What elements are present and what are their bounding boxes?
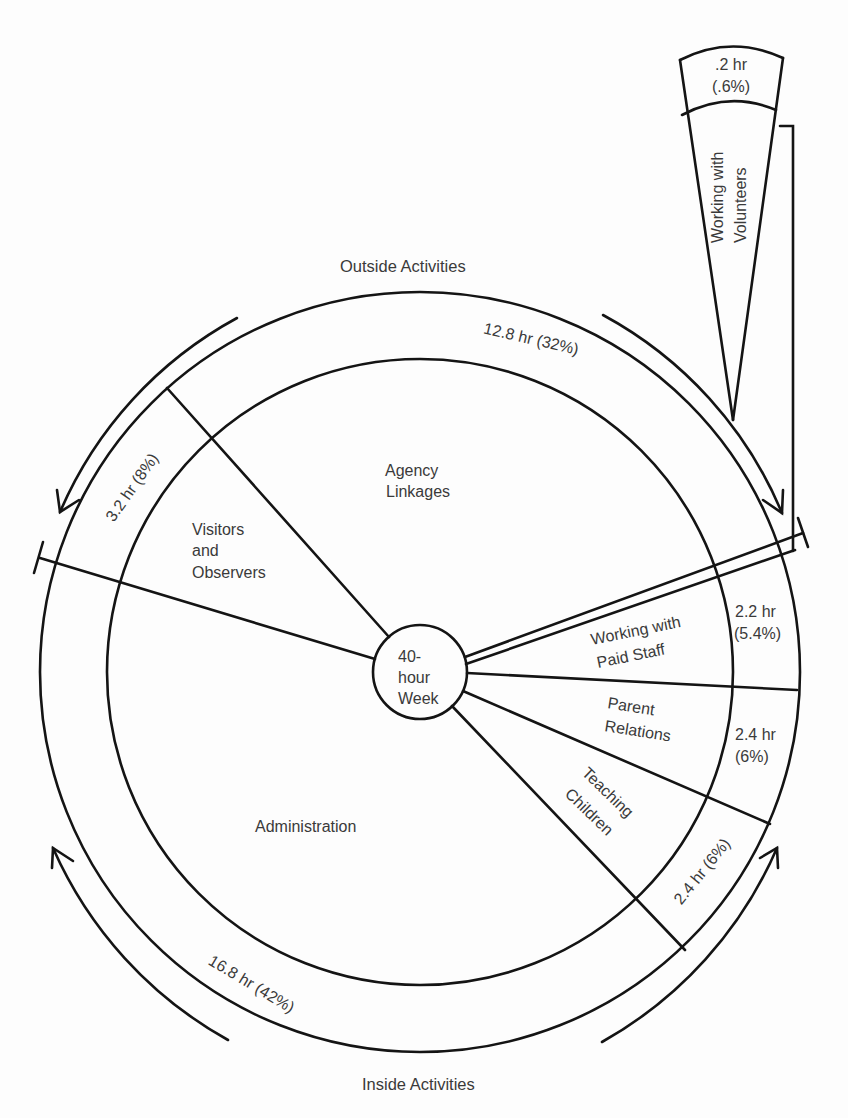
divider-teaching-administration xyxy=(452,706,685,950)
agency-label-line1: Agency xyxy=(385,462,438,479)
paidstaff-value-line1: 2.2 hr xyxy=(735,603,777,620)
visitors-value: 3.2 hr (8%) xyxy=(102,450,161,525)
arrow-inside-left xyxy=(52,848,228,1040)
paidstaff-value-line2: (5.4%) xyxy=(734,625,781,642)
time-allocation-diagram: Outside Activities Inside Activities 40-… xyxy=(0,0,848,1118)
parent-value-line1: 2.4 hr xyxy=(735,726,777,743)
divider-visitors-agency xyxy=(167,388,389,637)
parent-label-line2: Relations xyxy=(604,717,673,744)
visitors-label-line1: Visitors xyxy=(192,521,244,538)
visitors-label-line2: and xyxy=(192,542,219,559)
agency-value: 12.8 hr (32%) xyxy=(482,320,580,358)
arrow-outside-right xyxy=(603,315,783,513)
outside-activities-label: Outside Activities xyxy=(340,257,466,275)
parent-value-line2: (6%) xyxy=(735,748,769,765)
divider-paidstaff-parent xyxy=(467,673,797,690)
visitors-label-line3: Observers xyxy=(192,564,266,581)
arrow-outside-left xyxy=(57,318,237,512)
center-label-line3: Week xyxy=(398,690,440,707)
parent-label-line1: Parent xyxy=(607,694,657,718)
agency-label-line2: Linkages xyxy=(386,483,450,500)
volunteers-value-line1: .2 hr xyxy=(715,56,748,73)
paidstaff-label-line1: Working with xyxy=(589,613,682,648)
administration-value: 16.8 hr (42%) xyxy=(206,952,298,1017)
inside-activities-label: Inside Activities xyxy=(362,1075,475,1093)
volunteers-label-line2: Volunteers xyxy=(732,167,749,243)
administration-label: Administration xyxy=(255,818,356,835)
volunteers-label-line1: Working with xyxy=(709,152,726,243)
center-label-line1: 40- xyxy=(398,648,421,665)
tick-right xyxy=(798,518,808,547)
center-label-line2: hour xyxy=(398,669,431,686)
volunteer-callout-bracket xyxy=(780,126,793,551)
volunteers-value-line2: (.6%) xyxy=(712,78,750,95)
